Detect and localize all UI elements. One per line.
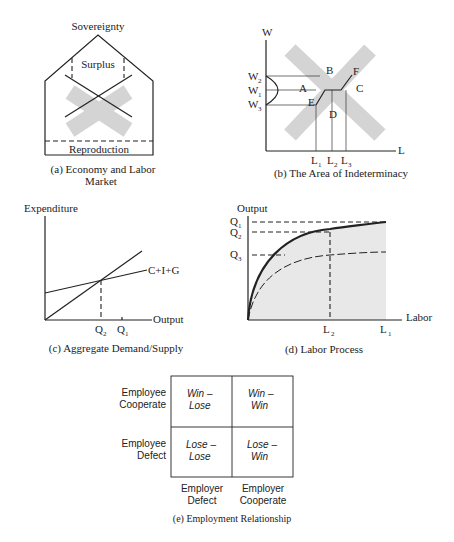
svg-text:Cooperate: Cooperate [119, 399, 166, 410]
svg-text:Lose –: Lose – [247, 439, 277, 450]
svg-text:L: L [380, 323, 387, 335]
svg-text:L: L [327, 154, 334, 166]
svg-text:1: 1 [125, 330, 129, 338]
col-label-employer-cooperate: Employer Cooperate [240, 483, 287, 506]
caption-b: (b) The Area of Indeterminacy [274, 167, 409, 180]
svg-text:Defect: Defect [188, 495, 217, 506]
region-c-label: C [356, 82, 363, 94]
cell-win-win: Win – Win [248, 388, 274, 411]
y-axis-label: Output [237, 202, 268, 214]
svg-text:1: 1 [238, 222, 242, 230]
svg-text:Q: Q [230, 248, 238, 260]
surplus-label: Surplus [81, 58, 115, 70]
figure-canvas: Sovereignty Surplus Reproduction (a) Eco… [0, 0, 454, 542]
gray-x-mark [70, 92, 128, 130]
svg-text:Employer: Employer [242, 483, 285, 494]
svg-text:Employee: Employee [122, 438, 167, 449]
x-axis-label: Output [153, 313, 184, 325]
svg-text:Employee: Employee [122, 387, 167, 398]
y-tick-w2: W 2 [248, 70, 262, 85]
output-shaded-area [248, 222, 386, 320]
region-e-label: E [308, 96, 315, 108]
region-f-label: F [353, 65, 359, 77]
cig-line [45, 270, 147, 293]
svg-text:Employer: Employer [181, 483, 224, 494]
svg-text:L: L [341, 154, 348, 166]
caption-a-line2: Market [85, 175, 117, 187]
svg-text:Win –: Win – [248, 388, 274, 399]
region-a-label: A [299, 82, 307, 94]
panel-a-economy-labor-market: Sovereignty Surplus Reproduction (a) Eco… [45, 20, 156, 187]
y-axis-label: Expenditure [24, 202, 78, 214]
svg-text:Q: Q [95, 323, 103, 335]
cell-lose-win: Lose – Win [247, 439, 277, 462]
sovereignty-label: Sovereignty [71, 20, 125, 32]
cell-win-lose: Win – Lose [187, 388, 213, 411]
x-tick-l2: L 2 [323, 323, 335, 338]
svg-text:2: 2 [258, 77, 262, 85]
caption-d: (d) Labor Process [285, 343, 363, 356]
x-tick-q1: Q 1 [117, 323, 129, 338]
svg-text:Lose –: Lose – [186, 439, 216, 450]
y-axis-label: W [262, 26, 273, 38]
svg-text:Lose: Lose [189, 400, 211, 411]
svg-text:3: 3 [238, 255, 242, 263]
panel-e-employment-relationship: Employee Cooperate Employee Defect Win –… [119, 376, 293, 525]
panel-c-aggregate-demand-supply: Expenditure Output C+I+G Q 2 Q 1 (c) Agg… [24, 202, 184, 355]
svg-text:Defect: Defect [137, 450, 166, 461]
svg-text:Q: Q [117, 323, 125, 335]
row-label-employee-cooperate: Employee Cooperate [119, 387, 166, 410]
cell-lose-lose: Lose – Lose [186, 439, 216, 462]
reproduction-label: Reproduction [69, 143, 129, 155]
svg-text:2: 2 [103, 330, 107, 338]
caption-e: (e) Employment Relationship [173, 513, 291, 525]
y-tick-w1: W 1 [248, 84, 262, 99]
svg-text:Win: Win [251, 400, 269, 411]
cig-label: C+I+G [148, 264, 179, 276]
svg-text:Win –: Win – [187, 388, 213, 399]
svg-text:Cooperate: Cooperate [240, 495, 287, 506]
x-tick-q2: Q 2 [95, 323, 107, 338]
svg-text:2: 2 [238, 233, 242, 241]
row-label-employee-defect: Employee Defect [122, 438, 167, 461]
y-tick-q3: Q 3 [230, 248, 242, 263]
region-b-label: B [326, 64, 333, 76]
x-axis-label: L [398, 144, 405, 156]
svg-text:2: 2 [331, 330, 335, 338]
panel-b-area-of-indeterminacy: W L W 2 W 1 W 3 L 1 L [248, 26, 409, 180]
svg-text:Win: Win [251, 451, 269, 462]
panel-d-labor-process: Output Labor Q 1 Q 2 Q 3 L 2 L [230, 202, 433, 356]
svg-text:L: L [323, 323, 330, 335]
caption-c: (c) Aggregate Demand/Supply [49, 342, 184, 355]
svg-text:Q: Q [230, 226, 238, 238]
wage-distribution-curve [266, 76, 278, 105]
y-tick-w3: W 3 [248, 98, 262, 113]
region-d-label: D [329, 108, 337, 120]
forty-five-degree-line [45, 251, 142, 320]
x-axis-label: Labor [406, 311, 433, 323]
svg-text:Lose: Lose [189, 451, 211, 462]
x-tick-l1: L 1 [380, 323, 392, 338]
svg-text:1: 1 [388, 330, 392, 338]
svg-text:1: 1 [258, 91, 262, 99]
svg-text:3: 3 [258, 105, 262, 113]
svg-text:L: L [311, 154, 318, 166]
col-label-employer-defect: Employer Defect [181, 483, 224, 506]
